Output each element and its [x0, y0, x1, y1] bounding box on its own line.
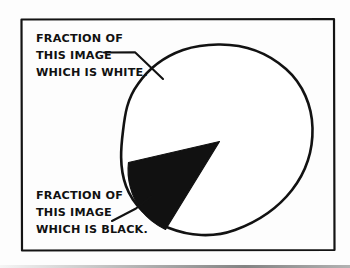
self-description-pie-chart: FRACTION OF THIS IMAGE WHICH IS WHITE. F… — [0, 0, 350, 268]
label-white-line-1: FRACTION OF — [36, 32, 123, 45]
label-black-line-1: FRACTION OF — [36, 189, 123, 202]
label-white-line-2: THIS IMAGE — [36, 49, 112, 62]
label-black-line-3: WHICH IS BLACK. — [36, 223, 148, 236]
label-black-line-2: THIS IMAGE — [36, 206, 112, 219]
comic-panel: FRACTION OF THIS IMAGE WHICH IS WHITE. F… — [0, 0, 350, 268]
label-white-line-3: WHICH IS WHITE. — [36, 66, 148, 79]
